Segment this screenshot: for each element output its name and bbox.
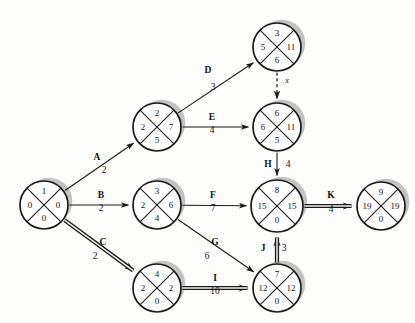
activity-label-b: B [86, 190, 116, 200]
activity-label-c: C [88, 237, 118, 247]
activity-label-g: G [200, 237, 230, 247]
activity-label-e: E [197, 112, 227, 122]
activity-duration-a: 2 [89, 165, 119, 175]
activity-duration-f: 7 [198, 203, 228, 213]
activity-label-a: A [82, 152, 112, 162]
node-7 [253, 264, 301, 312]
activity-duration-j: 3 [269, 243, 299, 253]
node-9 [357, 182, 405, 230]
activity-label-x: x [272, 76, 302, 85]
activity-duration-k: 4 [316, 204, 346, 214]
node-8 [251, 180, 303, 232]
node-4 [133, 264, 181, 312]
node-shadow-layer [26, 20, 410, 308]
activity-duration-e: 4 [197, 125, 227, 135]
activity-duration-c: 2 [80, 251, 110, 261]
node-5 [253, 23, 301, 71]
node-3 [133, 181, 181, 229]
activity-duration-d: 3 [198, 82, 228, 92]
node-6 [253, 103, 301, 151]
activity-label-d: D [193, 65, 223, 75]
network-diagram-canvas: 1000227532644220351166611581515071212091… [0, 0, 415, 323]
activity-duration-g: 6 [192, 251, 222, 261]
activity-label-f: F [198, 190, 228, 200]
node-1 [20, 181, 68, 229]
activity-label-k: K [316, 190, 346, 200]
activity-duration-h: 4 [273, 159, 303, 169]
node-2 [133, 103, 181, 151]
activity-duration-i: 10 [200, 286, 230, 296]
activity-duration-b: 2 [86, 203, 116, 213]
activity-label-i: I [200, 273, 230, 283]
